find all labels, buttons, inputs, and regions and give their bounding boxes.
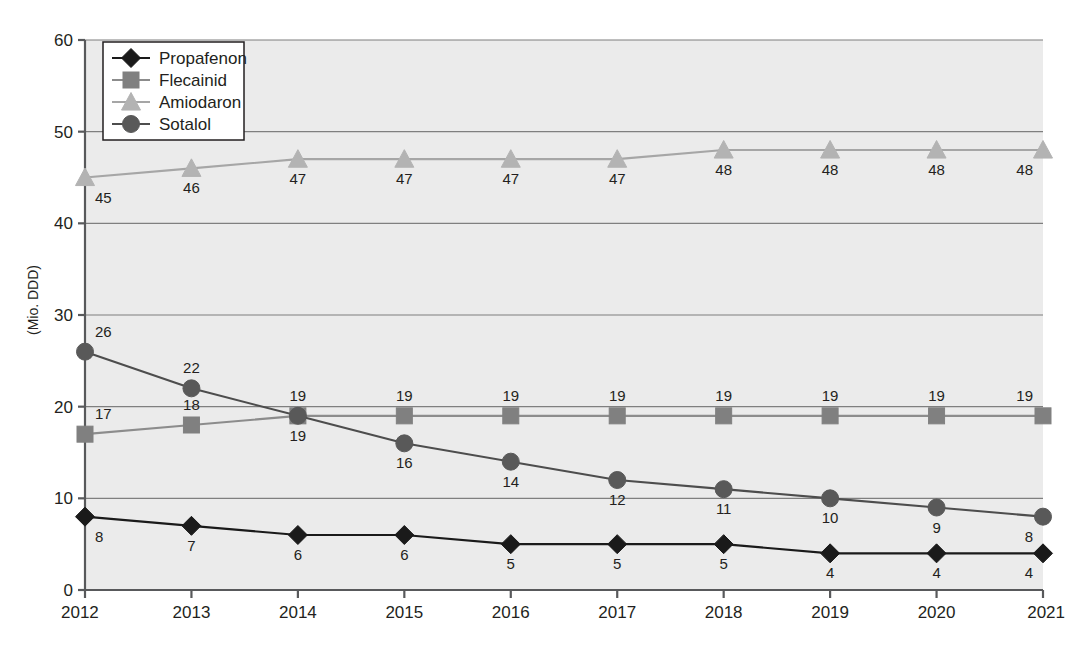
marker-circle-sotalol bbox=[1035, 508, 1052, 525]
y-axis-tick-label: 10 bbox=[54, 489, 73, 508]
marker-circle-sotalol bbox=[77, 343, 94, 360]
marker-square-flecainid bbox=[396, 408, 412, 424]
marker-square-flecainid bbox=[716, 408, 732, 424]
legend-label-amiodaron: Amiodaron bbox=[159, 93, 241, 112]
legend-item-flecainid[interactable]: Flecainid bbox=[112, 71, 227, 90]
y-axis-title: (Mio. DDD) bbox=[25, 265, 41, 335]
data-label: 47 bbox=[290, 170, 307, 187]
legend-label-sotalol: Sotalol bbox=[159, 115, 211, 134]
data-label: 18 bbox=[183, 396, 200, 413]
marker-circle-sotalol bbox=[928, 499, 945, 516]
y-axis-tick-label: 0 bbox=[64, 581, 73, 600]
marker-square-flecainid bbox=[609, 408, 625, 424]
data-label: 19 bbox=[1016, 387, 1033, 404]
legend-label-flecainid: Flecainid bbox=[159, 71, 227, 90]
legend-item-sotalol[interactable]: Sotalol bbox=[112, 115, 211, 134]
marker-circle-sotalol bbox=[289, 407, 306, 424]
marker-square-flecainid bbox=[503, 408, 519, 424]
data-label: 4 bbox=[826, 564, 834, 581]
legend-label-propafenon: Propafenon bbox=[159, 49, 247, 68]
x-axis-tick-label: 2015 bbox=[385, 603, 423, 622]
data-label: 22 bbox=[183, 359, 200, 376]
data-label: 10 bbox=[822, 509, 839, 526]
legend: PropafenonFlecainidAmiodaronSotalol bbox=[103, 42, 247, 140]
data-label: 6 bbox=[400, 546, 408, 563]
data-label: 17 bbox=[95, 405, 112, 422]
x-axis-tick-label: 2017 bbox=[598, 603, 636, 622]
data-label: 12 bbox=[609, 491, 626, 508]
data-label: 19 bbox=[715, 387, 732, 404]
data-label: 19 bbox=[290, 387, 307, 404]
marker-square-flecainid bbox=[183, 417, 199, 433]
marker-square-flecainid bbox=[77, 426, 93, 442]
data-label: 47 bbox=[609, 170, 626, 187]
chart-container: 0102030405060(Mio. DDD)20122013201420152… bbox=[0, 0, 1087, 650]
data-label: 11 bbox=[716, 500, 732, 517]
data-label: 26 bbox=[95, 323, 112, 340]
x-axis-tick-label: 2014 bbox=[279, 603, 317, 622]
data-label: 48 bbox=[928, 161, 945, 178]
data-label: 47 bbox=[502, 170, 519, 187]
data-label: 5 bbox=[613, 555, 621, 572]
data-label: 7 bbox=[187, 537, 195, 554]
y-axis-tick-label: 60 bbox=[54, 31, 73, 50]
y-axis-tick-label: 30 bbox=[54, 306, 73, 325]
data-label: 19 bbox=[396, 387, 413, 404]
x-axis-tick-label: 2021 bbox=[1027, 603, 1065, 622]
data-label: 19 bbox=[928, 387, 945, 404]
marker-circle-sotalol bbox=[502, 453, 519, 470]
marker-circle-sotalol bbox=[609, 472, 626, 489]
x-axis-tick-label: 2018 bbox=[705, 603, 743, 622]
data-label: 16 bbox=[396, 454, 413, 471]
x-axis-tick-label: 2013 bbox=[173, 603, 211, 622]
data-label: 5 bbox=[719, 555, 727, 572]
y-axis-tick-label: 40 bbox=[54, 214, 73, 233]
data-label: 19 bbox=[609, 387, 626, 404]
x-axis-tick-label: 2019 bbox=[811, 603, 849, 622]
marker-circle-sotalol bbox=[183, 380, 200, 397]
data-label: 5 bbox=[507, 555, 515, 572]
marker-square-flecainid bbox=[1035, 408, 1051, 424]
y-axis-tick-label: 50 bbox=[54, 123, 73, 142]
x-axis-tick-label: 2012 bbox=[61, 603, 99, 622]
marker-circle-sotalol bbox=[396, 435, 413, 452]
data-label: 48 bbox=[822, 161, 839, 178]
marker-square-flecainid bbox=[929, 408, 945, 424]
data-label: 45 bbox=[95, 189, 112, 206]
x-axis-tick-label: 2016 bbox=[492, 603, 530, 622]
data-label: 48 bbox=[715, 161, 732, 178]
data-label: 46 bbox=[183, 179, 200, 196]
line-chart: 0102030405060(Mio. DDD)20122013201420152… bbox=[0, 0, 1087, 650]
data-label: 8 bbox=[95, 528, 103, 545]
data-label: 19 bbox=[822, 387, 839, 404]
marker-square-legend-flecainid bbox=[123, 72, 139, 88]
data-label: 19 bbox=[502, 387, 519, 404]
marker-circle-sotalol bbox=[715, 481, 732, 498]
marker-square-flecainid bbox=[822, 408, 838, 424]
y-axis-tick-label: 20 bbox=[54, 398, 73, 417]
marker-circle-sotalol bbox=[822, 490, 839, 507]
data-label: 47 bbox=[396, 170, 413, 187]
marker-circle-legend-sotalol bbox=[123, 116, 140, 133]
data-label: 9 bbox=[932, 519, 940, 536]
data-label: 4 bbox=[1025, 564, 1033, 581]
x-axis-tick-label: 2020 bbox=[918, 603, 956, 622]
data-label: 4 bbox=[932, 564, 940, 581]
legend-item-amiodaron[interactable]: Amiodaron bbox=[112, 93, 241, 113]
data-label: 6 bbox=[294, 546, 302, 563]
data-label: 48 bbox=[1016, 161, 1033, 178]
legend-item-propafenon[interactable]: Propafenon bbox=[112, 49, 247, 69]
data-label: 14 bbox=[502, 473, 519, 490]
data-label: 19 bbox=[290, 427, 307, 444]
data-label: 8 bbox=[1025, 528, 1033, 545]
